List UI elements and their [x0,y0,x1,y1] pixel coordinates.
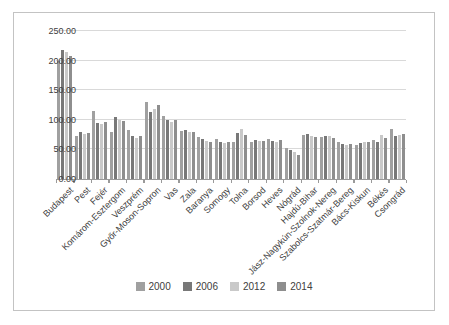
bar [302,135,305,179]
bar [258,141,261,179]
y-tick-label: 100.00 [36,116,76,125]
bar-group [144,31,162,179]
bar [96,123,99,179]
legend-swatch [136,282,145,291]
bar [328,136,331,179]
legend-label: 2014 [290,281,312,292]
bar [170,122,173,179]
bar [153,109,156,179]
plot-area [56,31,406,179]
bar-group [179,31,197,179]
bar [83,134,86,179]
bar [376,142,379,179]
bar [122,121,125,179]
legend-item: 2000 [136,281,171,292]
bar [355,145,358,179]
bar [394,136,397,179]
bar-group [126,31,144,179]
bar-group [161,31,179,179]
bar [285,148,288,179]
x-axis-ticks [56,180,407,183]
bar [262,141,265,180]
bar [324,136,327,179]
bar [188,132,191,179]
bar [341,144,344,180]
bar-group [371,31,389,179]
bar [250,142,253,179]
bar [293,152,296,179]
bar [114,117,117,179]
bar [345,145,348,179]
bar-group [284,31,302,179]
bar-group [109,31,127,179]
legend: 2000200620122014 [14,281,434,292]
bar-group [231,31,249,179]
legend-item: 2012 [230,281,265,292]
bar [398,135,401,179]
bar [384,138,387,179]
bar [390,129,393,179]
legend-item: 2006 [183,281,218,292]
legend-label: 2012 [243,281,265,292]
bar [145,102,148,179]
x-tick-label: Budapest [41,185,75,219]
bar [314,137,317,179]
legend-swatch [277,282,286,291]
bar [367,142,370,179]
y-tick-label: 0.00 [36,175,76,184]
bar [201,139,204,179]
bar-group [336,31,354,179]
bar [359,143,362,179]
bar [180,131,183,180]
bar [337,142,340,179]
bar [162,116,165,179]
bar [402,134,405,179]
bar [118,120,121,179]
bar [223,143,226,179]
y-tick-label: 50.00 [36,145,76,154]
bar [166,120,169,179]
bar [289,150,292,179]
bar [363,142,366,179]
legend-swatch [230,282,239,291]
bar [139,136,142,179]
bar-group [196,31,214,179]
bar-group [249,31,267,179]
bar [227,142,230,179]
bar [320,137,323,179]
bar-group [74,31,92,179]
bar [79,132,82,179]
x-tick-label: Vas [162,185,180,203]
bar-group [91,31,109,179]
bar-group [389,31,407,179]
bar [100,124,103,179]
bar [149,112,152,180]
bar [127,130,130,179]
legend-item: 2014 [277,281,312,292]
bar [232,142,235,179]
bar [135,138,138,179]
bar [192,132,195,179]
bar [92,111,95,179]
bar [131,136,134,179]
bar-group [266,31,284,179]
legend-label: 2006 [196,281,218,292]
bar-group [56,31,74,179]
bar [205,141,208,179]
bar [157,105,160,179]
legend-swatch [183,282,192,291]
bar [197,137,200,179]
bar [110,132,113,179]
bar [275,142,278,179]
bar [372,140,375,179]
bar [306,134,309,179]
bar [215,139,218,179]
bar [349,144,352,180]
bar [279,140,282,179]
y-tick-label: 200.00 [36,57,76,66]
bar [380,135,383,179]
chart-figure: 0.0050.00100.00150.00200.00250.00 Budape… [13,12,435,311]
bar [174,120,177,179]
bar [184,130,187,179]
bars-layer [56,31,406,179]
